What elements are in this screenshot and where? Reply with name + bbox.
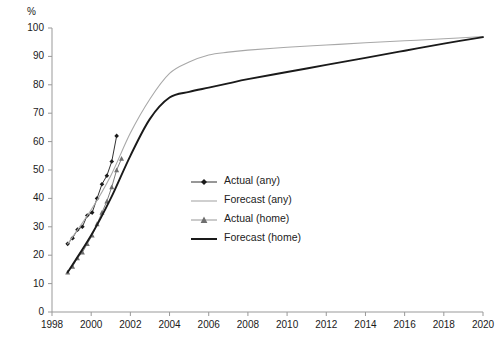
- y-tick-label: 40: [18, 192, 44, 203]
- legend-swatch-forecast-home: [190, 231, 218, 243]
- legend-swatch-forecast-any: [190, 193, 218, 205]
- y-tick-label: 80: [18, 79, 44, 90]
- chart-container: % 0102030405060708090100 199820002002200…: [0, 0, 499, 351]
- y-tick-label: 60: [18, 136, 44, 147]
- legend-item-actual-any: Actual (any): [190, 170, 335, 189]
- x-tick-label: 2012: [308, 319, 344, 330]
- x-tick-label: 2000: [73, 319, 109, 330]
- legend-swatch-actual-home: [190, 212, 218, 224]
- x-tick-label: 1998: [34, 319, 70, 330]
- chart-legend: Actual (any) Forecast (any) Actual (home…: [190, 170, 335, 246]
- x-tick-label: 2004: [152, 319, 188, 330]
- y-tick-label: 90: [18, 50, 44, 61]
- legend-label-actual-any: Actual (any): [224, 174, 280, 186]
- y-tick-label: 100: [18, 22, 44, 33]
- x-tick-label: 2016: [387, 319, 423, 330]
- y-tick-label: 70: [18, 107, 44, 118]
- legend-swatch-actual-any: [190, 174, 218, 186]
- legend-item-forecast-home: Forecast (home): [190, 227, 335, 246]
- y-tick-label: 0: [18, 306, 44, 317]
- y-tick-label: 50: [18, 164, 44, 175]
- x-tick-label: 2018: [426, 319, 462, 330]
- legend-label-actual-home: Actual (home): [224, 212, 289, 224]
- series-actual-home: [65, 156, 124, 274]
- legend-label-forecast-home: Forecast (home): [224, 231, 301, 243]
- y-tick-label: 30: [18, 221, 44, 232]
- y-tick-label: 20: [18, 249, 44, 260]
- x-tick-label: 2020: [465, 319, 499, 330]
- legend-item-actual-home: Actual (home): [190, 208, 335, 227]
- x-tick-label: 2010: [269, 319, 305, 330]
- legend-label-forecast-any: Forecast (any): [224, 193, 292, 205]
- x-tick-label: 2008: [230, 319, 266, 330]
- x-tick-label: 2002: [112, 319, 148, 330]
- y-tick-label: 10: [18, 278, 44, 289]
- legend-item-forecast-any: Forecast (any): [190, 189, 335, 208]
- x-tick-label: 2006: [191, 319, 227, 330]
- x-tick-label: 2014: [347, 319, 383, 330]
